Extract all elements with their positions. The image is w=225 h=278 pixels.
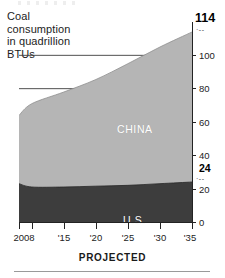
y-callout-label-24: 24 bbox=[199, 164, 211, 174]
series-label-china: CHINA bbox=[117, 123, 153, 135]
y-tick-label-100: 100 bbox=[199, 51, 215, 61]
y-tick-mark-60 bbox=[192, 122, 196, 123]
y-tick-mark-80 bbox=[192, 88, 196, 89]
leader-dots-total: ·-- bbox=[196, 26, 205, 33]
bottom-divider-rule bbox=[14, 271, 210, 272]
y-tick-label-0: 0 bbox=[199, 218, 204, 228]
projected-axis-label: PROJECTED bbox=[0, 252, 225, 263]
x-tick-mark-2015 bbox=[64, 223, 65, 229]
y-tick-mark-40 bbox=[192, 155, 196, 156]
x-tick-mark-2020 bbox=[96, 223, 97, 229]
x-tick-mark-2008 bbox=[19, 223, 20, 229]
x-tick-label-2015: '15 bbox=[58, 233, 70, 243]
callout-total-2035: 114 bbox=[195, 12, 215, 25]
coal-consumption-chart-figure: Coal consumption in quadrillion BTUs CHI… bbox=[0, 0, 225, 278]
y-tick-mark-100 bbox=[192, 55, 196, 56]
x-tick-label-2035: '35 bbox=[184, 233, 196, 243]
leader-dots-us: ·-- bbox=[196, 175, 205, 182]
x-tick-label-2008: 2008 bbox=[13, 233, 34, 243]
area-series-us bbox=[19, 182, 192, 222]
chart-title-line-1: Coal bbox=[7, 10, 117, 23]
y-tick-label-20: 20 bbox=[199, 185, 210, 195]
x-tick-mark-2030 bbox=[160, 223, 161, 229]
x-tick-label-2025: '25 bbox=[122, 233, 134, 243]
x-tick-label-2030: '30 bbox=[154, 233, 166, 243]
plot-area: CHINA U.S. bbox=[19, 22, 192, 222]
x-tick-mark-2025 bbox=[128, 223, 129, 229]
x-axis-line bbox=[19, 222, 193, 223]
x-tick-mark-2010 bbox=[32, 223, 33, 229]
x-tick-mark-2035 bbox=[192, 223, 193, 229]
y-tick-label-60: 60 bbox=[199, 118, 210, 128]
page-scan-artifact bbox=[18, 1, 78, 5]
y-tick-label-40: 40 bbox=[199, 151, 210, 161]
y-tick-label-80: 80 bbox=[199, 84, 210, 94]
stacked-area-plot bbox=[19, 22, 192, 222]
series-label-us: U.S. bbox=[123, 214, 146, 226]
x-tick-label-2020: '20 bbox=[90, 233, 102, 243]
y-tick-mark-20 bbox=[192, 189, 196, 190]
